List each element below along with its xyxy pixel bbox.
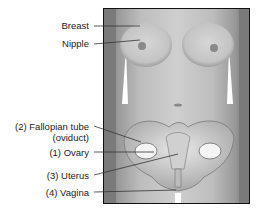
vagina-leader — [94, 190, 176, 192]
label-nipple: Nipple — [0, 38, 89, 49]
nipple-leader — [94, 40, 140, 44]
label-fallopian-tube: (2) Fallopian tube — [0, 121, 89, 132]
label-uterus: (3) Uterus — [0, 170, 89, 181]
label-ovary: (1) Ovary — [0, 147, 89, 158]
leader-lines — [0, 0, 259, 213]
label-breast: Breast — [0, 20, 89, 31]
uterus-leader — [94, 154, 178, 175]
label-oviduct: (oviduct) — [0, 132, 89, 143]
fallopian-leader — [94, 126, 141, 142]
label-vagina: (4) Vagina — [0, 187, 89, 198]
